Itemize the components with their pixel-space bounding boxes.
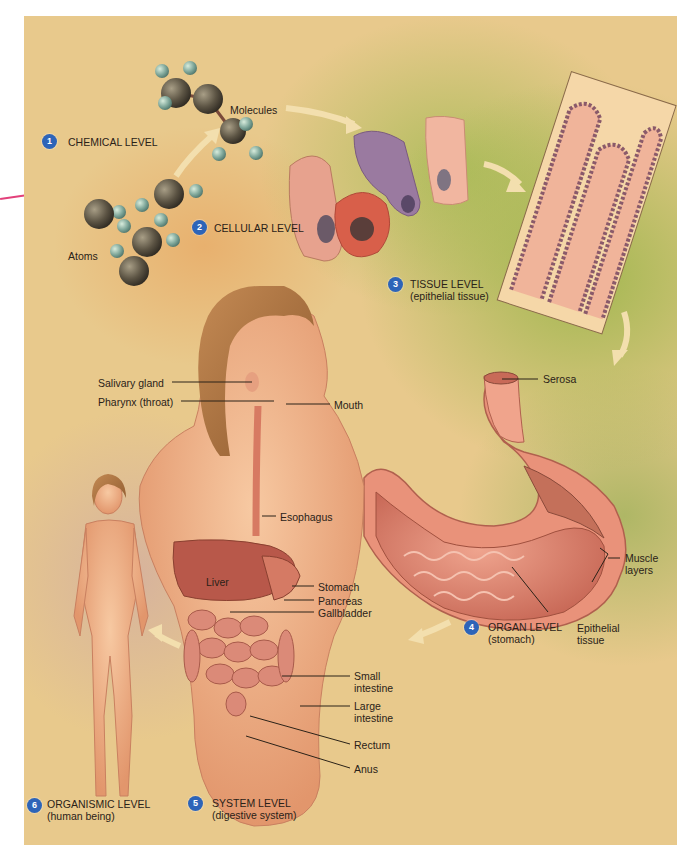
level-5-badge: 5: [188, 796, 203, 811]
epithelial-tissue-label: Epithelial tissue: [577, 622, 627, 646]
stomach-illustration: [364, 372, 626, 630]
mouth-label: Mouth: [334, 399, 363, 411]
level-4-label: ORGAN LEVEL (stomach): [488, 621, 562, 645]
level-3-subtitle: (epithelial tissue): [410, 290, 489, 302]
level-2-label: CELLULAR LEVEL: [214, 222, 304, 234]
figure-panel: 1 CHEMICAL LEVEL 2 CELLULAR LEVEL 3 TISS…: [24, 16, 677, 845]
atoms-label: Atoms: [68, 250, 98, 262]
level-1-label: CHEMICAL LEVEL: [68, 136, 157, 148]
level-2-badge: 2: [192, 220, 207, 235]
level-6-label: ORGANISMIC LEVEL (human being): [47, 798, 150, 822]
anus-label: Anus: [354, 763, 378, 775]
level-5-title: SYSTEM LEVEL: [212, 797, 297, 809]
atoms-illustration: [84, 179, 203, 286]
level-3-label: TISSUE LEVEL (epithelial tissue): [410, 278, 489, 302]
muscle-layers-label: Muscle layers: [625, 552, 675, 576]
human-figure-illustration: [74, 474, 148, 796]
level-4-badge: 4: [464, 620, 479, 635]
stomach-label: Stomach: [318, 581, 359, 593]
gallbladder-label: Gallbladder: [318, 607, 372, 619]
level-3-title: TISSUE LEVEL: [410, 278, 489, 290]
tissue-illustration: [497, 72, 676, 334]
esophagus-label: Esophagus: [280, 511, 333, 523]
salivary-gland-label: Salivary gland: [98, 377, 164, 389]
level-6-subtitle: (human being): [47, 810, 150, 822]
pharynx-label: Pharynx (throat): [98, 396, 173, 408]
level-5-subtitle: (digestive system): [212, 809, 297, 821]
liver-label: Liver: [206, 576, 229, 588]
level-3-badge: 3: [388, 277, 403, 292]
digestive-system-illustration: [139, 286, 364, 826]
level-4-subtitle: (stomach): [488, 633, 562, 645]
level-6-title: ORGANISMIC LEVEL: [47, 798, 150, 810]
molecules-label: Molecules: [230, 104, 277, 116]
serosa-label: Serosa: [543, 373, 576, 385]
level-6-badge: 6: [27, 798, 42, 813]
level-5-label: SYSTEM LEVEL (digestive system): [212, 797, 297, 821]
level-1-title: CHEMICAL LEVEL: [68, 136, 157, 148]
small-intestine-label: Small intestine: [354, 670, 404, 694]
large-intestine-label: Large intestine: [354, 700, 404, 724]
pancreas-label: Pancreas: [318, 595, 362, 607]
cells-illustration: [289, 116, 468, 261]
rectum-label: Rectum: [354, 739, 390, 751]
level-1-badge: 1: [42, 134, 57, 149]
level-4-title: ORGAN LEVEL: [488, 621, 562, 633]
level-2-title: CELLULAR LEVEL: [214, 222, 304, 234]
